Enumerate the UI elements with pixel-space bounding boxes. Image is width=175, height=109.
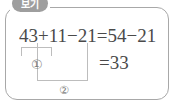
step-marker-2: ② <box>59 85 69 96</box>
step-marker-1: ① <box>31 58 43 71</box>
example-label-badge: 보기 <box>12 0 48 12</box>
underbrace-bracket-2 <box>37 43 88 81</box>
example-box-figure: 보기 43+11−21=54−21 =33 ① ② <box>0 0 175 109</box>
equation-line-2: =33 <box>99 53 129 72</box>
example-label-text: 보기 <box>21 0 40 10</box>
